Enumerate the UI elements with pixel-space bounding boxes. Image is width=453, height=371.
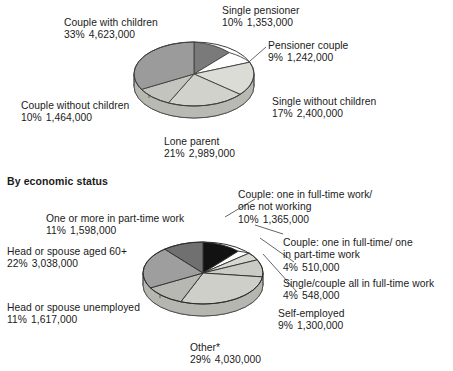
label-lone-parent: Lone parent 21%2,989,000	[164, 136, 235, 161]
label-single-without-children-value: 2,400,000	[297, 108, 343, 119]
section-title-by-economic-status: By economic status	[7, 175, 108, 187]
label-couple-without-children-name: Couple without children	[21, 100, 129, 111]
label-other-pct: 29%	[190, 354, 211, 365]
label-couple-one-ft-one-not-working-pct: 10%	[238, 214, 259, 225]
label-single-pensioner-name: Single pensioner	[222, 5, 300, 16]
label-lone-parent-name: Lone parent	[164, 136, 220, 147]
label-single-couple-all-ft-pct: 4%	[283, 290, 298, 301]
label-couple-with-children-name: Couple with children	[64, 17, 158, 28]
label-couple-one-ft-one-not-working-line2: one not working	[238, 201, 372, 213]
label-self-employed: Self-employed 9%1,300,000	[278, 308, 344, 333]
label-couple-with-children-pct: 33%	[64, 29, 85, 40]
label-couple-one-ft-one-not-working: Couple: one in full-time work/ one not w…	[238, 189, 372, 226]
label-couple-without-children: Couple without children 10%1,464,000	[21, 100, 129, 125]
label-single-couple-all-ft: Single/couple all in full-time work 4%54…	[283, 278, 434, 303]
label-other: Other* 29%4,030,000	[190, 342, 261, 367]
label-couple-one-ft-one-not-working-value: 1,365,000	[263, 214, 309, 225]
label-couple-one-ft-one-pt-pct: 4%	[283, 262, 298, 273]
label-couple-with-children: Couple with children 33%4,623,000	[64, 17, 158, 42]
label-couple-one-ft-one-pt-line2: in part-time work	[283, 249, 413, 261]
chart-by-economic-status: By economic status	[0, 170, 453, 371]
label-lone-parent-value: 2,989,000	[189, 148, 235, 159]
label-single-without-children-pct: 17%	[272, 108, 293, 119]
label-self-employed-line1: Self-employed	[278, 308, 344, 319]
label-other-line1: Other*	[190, 342, 220, 353]
label-couple-with-children-value: 4,623,000	[89, 29, 135, 40]
label-head-unemployed-line1: Head or spouse unemployed	[7, 302, 140, 313]
label-other-value: 4,030,000	[215, 354, 261, 365]
label-couple-without-children-pct: 10%	[21, 112, 42, 123]
label-self-employed-value: 1,300,000	[297, 320, 343, 331]
label-head-unemployed: Head or spouse unemployed 11%1,617,000	[7, 302, 140, 327]
label-one-or-more-pt-line1: One or more in part-time work	[46, 213, 184, 224]
label-couple-one-ft-one-pt-line1: Couple: one in full-time/ one	[283, 237, 413, 248]
label-one-or-more-pt-pct: 11%	[46, 225, 66, 236]
label-head-aged-60-value: 3,038,000	[32, 258, 78, 269]
label-head-unemployed-value: 1,617,000	[31, 314, 77, 325]
leader-line-couple-one-ft-one-pt	[255, 225, 283, 234]
label-single-pensioner-pct: 10%	[222, 17, 243, 28]
label-pensioner-couple-pct: 9%	[268, 52, 283, 63]
label-head-aged-60: Head or spouse aged 60+ 22%3,038,000	[7, 246, 127, 271]
label-head-aged-60-pct: 22%	[7, 258, 28, 269]
label-couple-one-ft-one-not-working-line1: Couple: one in full-time work/	[238, 189, 372, 200]
label-pensioner-couple-value: 1,242,000	[287, 52, 333, 63]
label-one-or-more-pt: One or more in part-time work 11%1,598,0…	[46, 213, 184, 238]
label-lone-parent-pct: 21%	[164, 148, 185, 159]
label-single-pensioner-value: 1,353,000	[247, 17, 293, 28]
label-single-pensioner: Single pensioner 10%1,353,000	[222, 5, 300, 30]
label-head-aged-60-line1: Head or spouse aged 60+	[7, 246, 127, 257]
label-couple-one-ft-one-pt-value: 510,000	[302, 262, 340, 273]
label-couple-without-children-value: 1,464,000	[46, 112, 92, 123]
label-single-without-children: Single without children 17%2,400,000	[272, 96, 376, 121]
label-single-couple-all-ft-line1: Single/couple all in full-time work	[283, 278, 434, 289]
label-self-employed-pct: 9%	[278, 320, 293, 331]
label-couple-one-ft-one-pt: Couple: one in full-time/ one in part-ti…	[283, 237, 413, 274]
leader-line-pensioner-couple	[250, 47, 266, 61]
label-one-or-more-pt-value: 1,598,000	[70, 225, 116, 236]
label-pensioner-couple: Pensioner couple 9%1,242,000	[268, 40, 348, 65]
label-single-without-children-name: Single without children	[272, 96, 376, 107]
label-pensioner-couple-name: Pensioner couple	[268, 40, 348, 51]
label-head-unemployed-pct: 11%	[7, 314, 27, 325]
chart-by-family-type: Single pensioner 10%1,353,000 Pensioner …	[0, 0, 453, 170]
label-single-couple-all-ft-value: 548,000	[302, 290, 340, 301]
